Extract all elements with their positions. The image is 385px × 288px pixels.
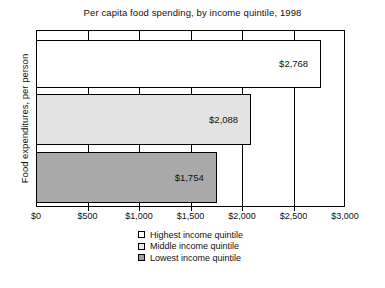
chart-legend: Highest income quintileMiddle income qui… [138,229,243,264]
legend-swatch-icon [138,254,145,261]
y-axis-label: Food expenditures, per person [19,29,30,209]
legend-item[interactable]: Lowest income quintile [138,252,243,264]
bar-value-label: $1,754 [175,172,204,183]
legend-swatch-icon [138,231,145,238]
legend-item-label: Lowest income quintile [150,253,241,263]
chart-title: Per capita food spending, by income quin… [0,7,385,18]
bar-value-label: $2,088 [209,114,238,125]
legend-item-label: Highest income quintile [150,230,243,240]
x-axis-tick-label: $3,000 [315,211,375,221]
legend-item-label: Middle income quintile [150,241,239,251]
legend-item[interactable]: Highest income quintile [138,229,243,241]
plot-area: $2,768$2,088$1,754 [36,30,345,207]
legend-swatch-icon [138,243,145,250]
legend-item[interactable]: Middle income quintile [138,241,243,253]
chart-container: Per capita food spending, by income quin… [0,0,385,288]
bar-value-label: $2,768 [279,58,308,69]
